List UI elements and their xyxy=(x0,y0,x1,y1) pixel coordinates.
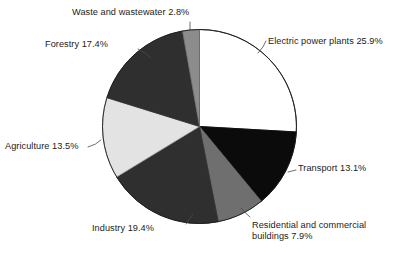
slice-label-residential-line1: Residential and commercial xyxy=(252,220,366,230)
leader-line-transport xyxy=(288,170,296,172)
slice-label-transport: Transport 13.1% xyxy=(298,163,366,174)
leader-line-agriculture xyxy=(88,140,101,147)
pie-slice-group xyxy=(103,30,297,224)
slice-label-agriculture: Agriculture 13.5% xyxy=(5,141,78,152)
pie-chart: Waste and wastewater 2.8% Electric power… xyxy=(0,0,404,257)
leader-line-electric xyxy=(258,41,266,53)
slice-label-electric-power-plants: Electric power plants 25.9% xyxy=(268,36,383,47)
slice-label-industry: Industry 19.4% xyxy=(92,223,154,234)
slice-label-forestry: Forestry 17.4% xyxy=(45,39,108,50)
slice-label-residential-and-commercial-buildings: Residential and commercialbuildings 7.9% xyxy=(252,220,382,243)
slice-label-residential-line2: buildings 7.9% xyxy=(252,231,312,241)
slice-label-waste-and-wastewater: Waste and wastewater 2.8% xyxy=(72,7,189,18)
